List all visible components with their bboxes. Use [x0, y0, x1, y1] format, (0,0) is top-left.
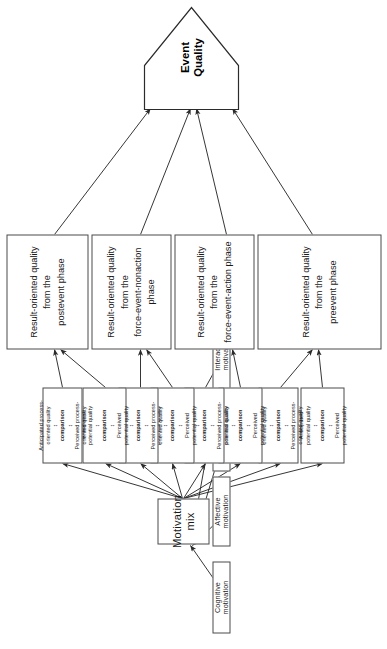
edge-mix-to-comparison-2: [183, 463, 280, 498]
phase-line-2: from the: [118, 275, 131, 309]
node-label: Cognitive motivation: [213, 564, 230, 630]
comparison-line-4: potential quality: [340, 406, 347, 445]
comparison-keyword: comparison: [318, 409, 325, 441]
comparison-arrow-up-icon: ↕: [326, 424, 333, 427]
comparison-line-3: Perceived: [251, 413, 258, 438]
phase-line-1: Result-oriented quality: [299, 246, 312, 337]
comparison-keyword: comparison: [100, 409, 107, 441]
comparison-line-4: potential quality: [122, 406, 129, 445]
comparison-arrow-down-icon: ↕: [267, 424, 274, 427]
edge-comparison-2-to-phase-1: [280, 349, 312, 387]
comparison-keyword: comparison: [200, 409, 207, 441]
comparison-line-4: potential quality: [258, 406, 265, 445]
comparison-line-3: Perceived: [333, 413, 340, 438]
comparison-line-2: oriented quality: [44, 406, 51, 444]
comparison-keyword: comparison: [134, 409, 141, 441]
comparison-arrow-up-icon: ↕: [108, 424, 115, 427]
edge-mix-to-comparison-7: [105, 463, 182, 498]
edge-mix-to-comparison-6: [140, 463, 182, 498]
edge-mix-to-comparison-8: [62, 463, 182, 498]
comparison-keyword: comparison: [58, 409, 65, 441]
phase-box-postevent[interactable]: Result-oriented quality from the posteve…: [6, 234, 88, 349]
phase-line-3: postevent phase: [54, 258, 67, 325]
node-affective-motivation[interactable]: Affective motivation: [212, 476, 230, 546]
comparison-arrow-down-icon: ↕: [311, 424, 318, 427]
edge-comparison-1-to-phase-1: [318, 349, 322, 387]
comparison-arrow-up-icon: ↕: [244, 424, 251, 427]
comparison-line-4: oriented quality: [156, 406, 163, 444]
comparison-keyword: comparison: [236, 409, 243, 441]
comparison-box-8-process[interactable]: Anticipated process- oriented quality ↕ …: [42, 387, 82, 463]
event-quality-label: Event Quality: [178, 38, 205, 79]
phase-line-2: from the: [40, 275, 53, 309]
comparison-line-3: Perceived process-: [73, 401, 80, 449]
event-quality-line-2: Quality: [191, 38, 203, 77]
comparison-keyword: comparison: [168, 409, 175, 441]
comparison-arrow-down-icon: ↕: [229, 424, 236, 427]
comparison-arrow-up-icon: ↕: [208, 424, 215, 427]
comparison-line-3: Perceived process-: [149, 401, 156, 449]
comparison-arrow-up-icon: ↕: [176, 424, 183, 427]
comparison-line-3: Perceived: [183, 413, 190, 438]
phase-line-1: Result-oriented quality: [104, 246, 117, 337]
comparison-arrow-down-icon: ↕: [93, 424, 100, 427]
edge-comparison-8-to-phase-4: [54, 349, 62, 387]
comparison-arrow-up-icon: ↕: [66, 424, 73, 427]
comparison-arrow-up-icon: ↕: [142, 424, 149, 427]
comparison-box-1-potential[interactable]: Anticipated potential quality ↕ comparis…: [300, 387, 344, 463]
edge-phase-4-to-event-quality: [54, 108, 150, 234]
node-cognitive-motivation[interactable]: Cognitive motivation: [212, 561, 230, 633]
comparison-line-4: oriented quality: [80, 406, 87, 444]
phase-line-2: from the: [207, 275, 220, 309]
diagram-rotation-wrapper: Cognitive motivation Affective motivatio…: [0, 0, 387, 649]
comparison-line-3: Perceived: [115, 413, 122, 438]
edge-mix-to-comparison-5: [172, 463, 182, 498]
figure-canvas: Cognitive motivation Affective motivatio…: [0, 0, 387, 649]
node-label: Motivation mix: [170, 495, 196, 548]
edge-phase-1-to-event-quality: [232, 108, 312, 234]
comparison-line-4: potential quality: [190, 406, 197, 445]
node-motivation-mix[interactable]: Motivation mix: [157, 498, 209, 544]
node-label: Affective motivation: [213, 479, 230, 543]
comparison-line-2: potential quality: [304, 406, 311, 445]
phase-line-2: from the: [312, 275, 325, 309]
comparison-arrow-up-icon: ↕: [282, 424, 289, 427]
phase-box-preevent[interactable]: Result-oriented quality from the preeven…: [257, 234, 381, 349]
comparison-line-1: Anticipated process-: [37, 400, 44, 451]
phase-line-1: Result-oriented quality: [27, 246, 40, 337]
edge-phase-2-to-event-quality: [196, 108, 226, 234]
comparison-line-4: oriented quality: [222, 406, 229, 444]
comparison-arrow-down-icon: ↕: [51, 424, 58, 427]
phase-box-force-event-nonaction[interactable]: Result-oriented quality from the force-e…: [91, 234, 171, 349]
phase-line-3: force-event-nonaction phase: [131, 238, 158, 345]
edge-comparison-5-to-phase-3: [146, 349, 172, 387]
event-quality-line-1: Event: [178, 41, 190, 72]
conceptual-model-diagram: Cognitive motivation Affective motivatio…: [0, 0, 387, 649]
phase-line-3: force-event-action phase: [221, 241, 234, 342]
node-event-quality[interactable]: Event Quality: [142, 5, 240, 111]
comparison-box-7-potential[interactable]: Anticipated potential quality ↕ comparis…: [82, 387, 126, 463]
edge-comparison-7-to-phase-4: [60, 349, 105, 387]
comparison-line-3: Perceived process-: [289, 401, 296, 449]
comparison-line-3: Perceived process-: [215, 401, 222, 449]
phase-box-force-event-action[interactable]: Result-oriented quality from the force-e…: [174, 234, 254, 349]
comparison-line-4: oriented quality: [296, 406, 303, 444]
edge-phase-3-to-event-quality: [140, 108, 190, 234]
edge-comparison-3-to-phase-2: [232, 349, 240, 387]
comparison-keyword: comparison: [274, 409, 281, 441]
phase-line-3: preevent phase: [326, 260, 339, 323]
phase-line-1: Result-oriented quality: [194, 246, 207, 337]
